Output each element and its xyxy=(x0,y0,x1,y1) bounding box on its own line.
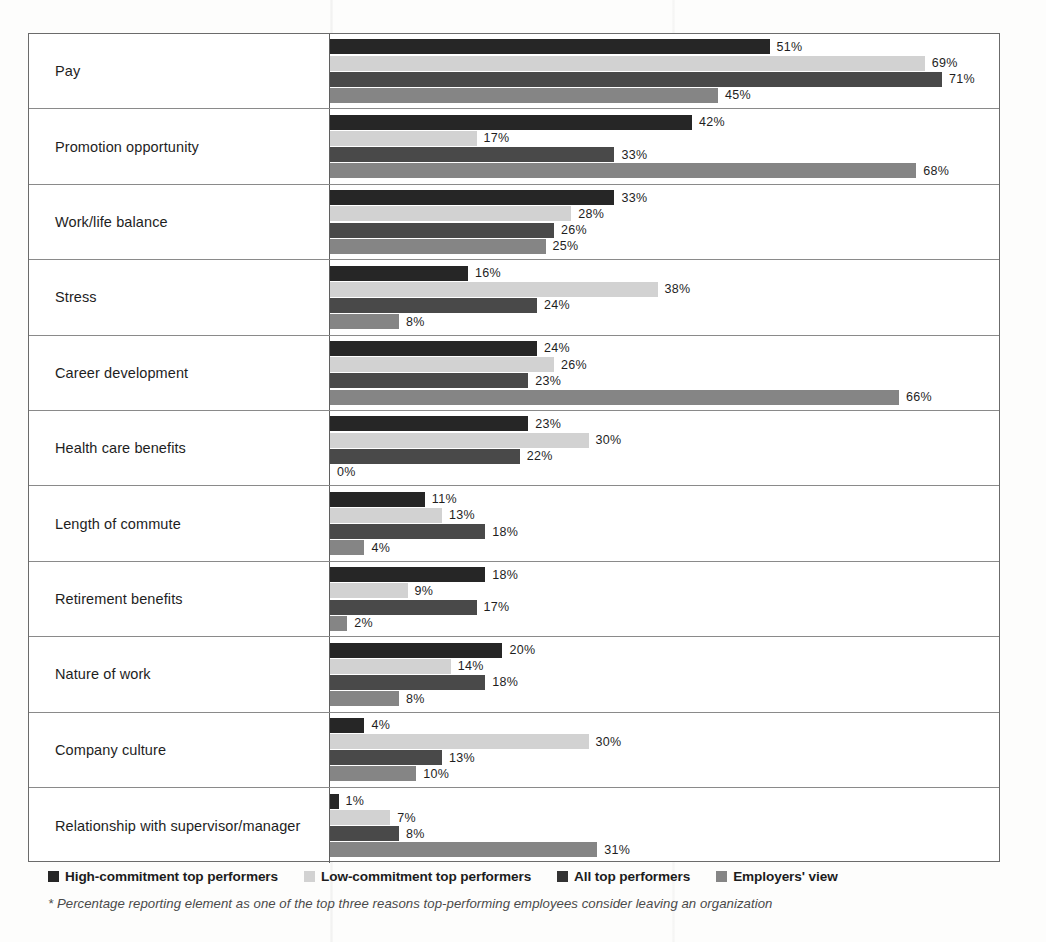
category-label-cell: Nature of work xyxy=(29,637,330,711)
bars-cell: 16%38%24%8% xyxy=(330,260,999,334)
bar-3 xyxy=(330,842,597,857)
category-label-cell: Work/life balance xyxy=(29,185,330,259)
bar-value-label: 0% xyxy=(337,465,356,479)
category-label-cell: Career development xyxy=(29,336,330,410)
bar-3 xyxy=(330,616,347,631)
bar-value-label: 20% xyxy=(509,643,535,657)
chart-row: Nature of work20%14%18%8% xyxy=(29,637,999,712)
bar-line: 18% xyxy=(330,524,999,539)
bar-value-label: 68% xyxy=(923,164,949,178)
bar-value-label: 8% xyxy=(406,315,425,329)
bar-0 xyxy=(330,341,537,356)
bar-value-label: 13% xyxy=(449,751,475,765)
category-label: Health care benefits xyxy=(55,440,186,456)
bar-line: 17% xyxy=(330,131,999,146)
bar-1 xyxy=(330,282,658,297)
legend-item: All top performers xyxy=(557,869,690,884)
bar-3 xyxy=(330,163,916,178)
bar-value-label: 10% xyxy=(423,767,449,781)
bar-value-label: 18% xyxy=(492,568,518,582)
legend-label: High-commitment top performers xyxy=(65,869,278,884)
bars-cell: 18%9%17%2% xyxy=(330,562,999,636)
bar-value-label: 7% xyxy=(397,811,416,825)
category-label-cell: Promotion opportunity xyxy=(29,109,330,183)
legend-swatch-icon xyxy=(557,871,568,882)
bar-0 xyxy=(330,266,468,281)
bar-value-label: 30% xyxy=(596,735,622,749)
chart-row: Promotion opportunity42%17%33%68% xyxy=(29,109,999,184)
bar-line: 13% xyxy=(330,750,999,765)
bar-value-label: 24% xyxy=(544,298,570,312)
category-label: Promotion opportunity xyxy=(55,139,199,155)
legend-item: Low-commitment top performers xyxy=(304,869,531,884)
bar-line: 7% xyxy=(330,810,999,825)
bar-line: 42% xyxy=(330,115,999,130)
category-label: Retirement benefits xyxy=(55,591,183,607)
category-label: Work/life balance xyxy=(55,214,168,230)
bar-line: 68% xyxy=(330,163,999,178)
category-label: Length of commute xyxy=(55,516,181,532)
bar-value-label: 16% xyxy=(475,266,501,280)
bar-value-label: 38% xyxy=(665,282,691,296)
bar-line: 33% xyxy=(330,147,999,162)
legend-swatch-icon xyxy=(716,871,727,882)
bar-line: 45% xyxy=(330,88,999,103)
legend-label: Low-commitment top performers xyxy=(321,869,531,884)
bar-value-label: 2% xyxy=(354,616,373,630)
bar-value-label: 28% xyxy=(578,207,604,221)
bar-0 xyxy=(330,643,502,658)
bars-cell: 33%28%26%25% xyxy=(330,185,999,259)
bar-value-label: 8% xyxy=(406,692,425,706)
chart-row: Work/life balance33%28%26%25% xyxy=(29,185,999,260)
bar-0 xyxy=(330,39,770,54)
bar-0 xyxy=(330,492,425,507)
bar-1 xyxy=(330,508,442,523)
bar-line: 8% xyxy=(330,314,999,329)
chart-row: Relationship with supervisor/manager1%7%… xyxy=(29,788,999,863)
bar-line: 16% xyxy=(330,266,999,281)
bar-line: 18% xyxy=(330,675,999,690)
bar-3 xyxy=(330,540,364,555)
bar-value-label: 14% xyxy=(458,659,484,673)
bars-cell: 4%30%13%10% xyxy=(330,713,999,787)
bar-1 xyxy=(330,810,390,825)
bar-line: 2% xyxy=(330,616,999,631)
bar-line: 4% xyxy=(330,718,999,733)
bar-value-label: 18% xyxy=(492,525,518,539)
bar-value-label: 17% xyxy=(484,600,510,614)
bar-line: 23% xyxy=(330,373,999,388)
bar-3 xyxy=(330,88,718,103)
bar-value-label: 4% xyxy=(371,541,390,555)
bar-value-label: 11% xyxy=(432,492,457,506)
legend-label: All top performers xyxy=(574,869,690,884)
bar-line: 4% xyxy=(330,540,999,555)
bar-line: 10% xyxy=(330,766,999,781)
bar-1 xyxy=(330,659,451,674)
bar-line: 25% xyxy=(330,239,999,254)
bar-1 xyxy=(330,357,554,372)
bar-1 xyxy=(330,131,477,146)
bar-value-label: 4% xyxy=(371,718,390,732)
chart-page: Pay51%69%71%45%Promotion opportunity42%1… xyxy=(0,0,1046,942)
chart-footnote: * Percentage reporting element as one of… xyxy=(48,896,772,911)
category-label: Pay xyxy=(55,63,80,79)
bar-line: 30% xyxy=(330,734,999,749)
chart-row: Career development24%26%23%66% xyxy=(29,336,999,411)
bars-cell: 1%7%8%31% xyxy=(330,788,999,863)
bar-2 xyxy=(330,449,520,464)
bar-value-label: 42% xyxy=(699,115,725,129)
bar-line: 71% xyxy=(330,72,999,87)
bar-0 xyxy=(330,718,364,733)
bar-2 xyxy=(330,826,399,841)
bar-line: 20% xyxy=(330,643,999,658)
bars-cell: 51%69%71%45% xyxy=(330,34,999,108)
bar-line: 24% xyxy=(330,341,999,356)
bar-line: 51% xyxy=(330,39,999,54)
bar-value-label: 8% xyxy=(406,827,425,841)
bar-value-label: 13% xyxy=(449,508,475,522)
bar-value-label: 25% xyxy=(553,239,579,253)
legend-swatch-icon xyxy=(48,871,59,882)
bar-value-label: 26% xyxy=(561,358,587,372)
bar-3 xyxy=(330,314,399,329)
bar-2 xyxy=(330,147,614,162)
